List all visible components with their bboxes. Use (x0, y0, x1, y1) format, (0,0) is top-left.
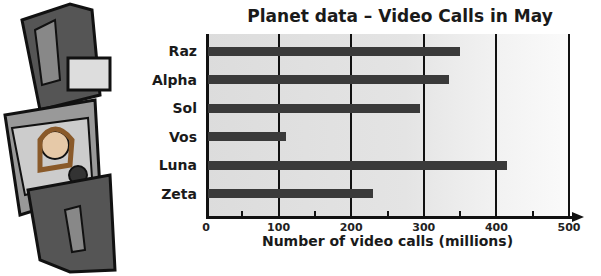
x-minor-tick (459, 211, 461, 217)
bar-vos (208, 132, 286, 141)
category-label: Vos (169, 129, 197, 145)
gridline (568, 34, 570, 217)
category-label: Sol (173, 100, 198, 116)
plot-area (206, 34, 569, 217)
gridline (495, 34, 497, 217)
x-minor-tick (532, 211, 534, 217)
chart-title: Planet data – Video Calls in May (200, 6, 600, 26)
category-label: Luna (159, 157, 197, 173)
gridline (423, 34, 425, 217)
category-label: Raz (169, 43, 197, 59)
x-minor-tick (314, 211, 316, 217)
bar-raz (208, 47, 460, 56)
bar-luna (208, 161, 507, 170)
bar-zeta (208, 189, 373, 198)
category-label: Alpha (152, 72, 197, 88)
x-axis (206, 216, 574, 219)
bar-alpha (208, 75, 449, 84)
category-label: Zeta (161, 186, 197, 202)
x-minor-tick (241, 211, 243, 217)
x-axis-title: Number of video calls (millions) (206, 233, 569, 249)
x-minor-tick (387, 211, 389, 217)
bar-sol (208, 104, 420, 113)
